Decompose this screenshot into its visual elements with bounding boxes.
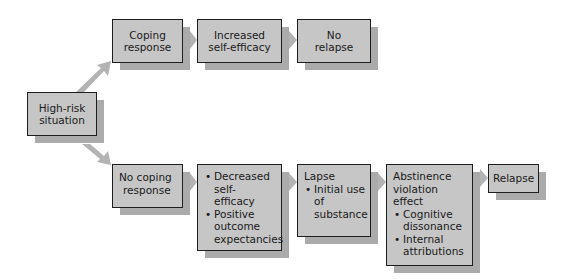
node-decreased-self-efficacy: Decreased self-efficacy Positive outcome…	[197, 164, 282, 251]
node-label: No coping	[119, 171, 177, 184]
node-title: Abstinence violation effect	[393, 170, 470, 208]
arrow-highrisk-to-coping	[76, 61, 111, 92]
bullet-item: Initial use of substance	[304, 183, 365, 221]
node-label: relapse	[315, 41, 354, 54]
node-label: situation	[39, 114, 85, 127]
bullet-item: Decreased self-efficacy	[204, 170, 276, 208]
node-label: Increased	[214, 29, 265, 42]
node-coping-response: Coping response	[112, 19, 183, 63]
bullet-item: Internal attributions	[393, 233, 470, 258]
node-label: Coping	[129, 29, 166, 42]
node-abstinence-violation-effect: Abstinence violation effect Cognitive di…	[386, 164, 473, 266]
node-increased-self-efficacy: Increased self-efficacy	[197, 19, 282, 63]
relapse-model-diagram: High-risk situation Coping response Incr…	[0, 0, 571, 279]
arrow-highrisk-to-nocoping	[82, 144, 111, 165]
bullet-list: Decreased self-efficacy Positive outcome…	[204, 170, 276, 245]
node-lapse: Lapse Initial use of substance	[297, 164, 371, 237]
node-no-relapse: No relapse	[297, 19, 371, 63]
node-label: Relapse	[493, 172, 534, 185]
node-label: No	[327, 29, 341, 42]
node-high-risk-situation: High-risk situation	[27, 92, 97, 136]
bullet-list: Cognitive dissonance Internal attributio…	[393, 208, 470, 258]
node-label: response	[124, 41, 172, 54]
node-label: High-risk	[39, 102, 86, 115]
bullet-item: Positive outcome expectancies	[204, 208, 276, 246]
node-label: self-efficacy	[208, 41, 271, 54]
bullet-item: Cognitive dissonance	[393, 208, 470, 233]
node-relapse: Relapse	[488, 164, 539, 193]
node-no-coping-response: No coping response	[112, 164, 183, 208]
bullet-list: Initial use of substance	[304, 183, 365, 221]
node-title: Lapse	[304, 170, 365, 183]
node-label: response	[119, 184, 177, 197]
